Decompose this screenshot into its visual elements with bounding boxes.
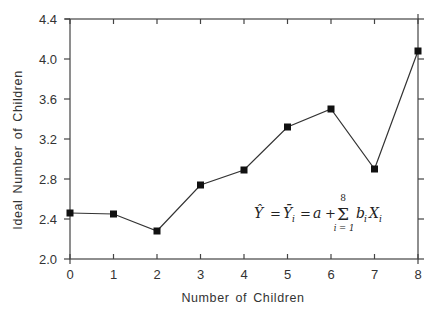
data-point-marker bbox=[328, 106, 335, 113]
formula-a: a bbox=[313, 205, 321, 221]
x-tick-label: 5 bbox=[284, 267, 291, 282]
x-tick-label: 4 bbox=[240, 267, 247, 282]
formula-b-sub: i bbox=[364, 214, 367, 224]
formula-eq2: = bbox=[300, 206, 311, 221]
y-tick-label: 4.4 bbox=[39, 12, 57, 27]
x-tick-label: 6 bbox=[327, 267, 334, 282]
data-point-marker bbox=[110, 211, 117, 218]
x-axis-ticks: 012345678 bbox=[66, 19, 421, 282]
x-tick-label: 3 bbox=[197, 267, 204, 282]
x-tick-label: 8 bbox=[414, 267, 421, 282]
formula-plus: + bbox=[325, 206, 336, 221]
data-point-marker bbox=[284, 124, 291, 131]
y-tick-label: 2.0 bbox=[39, 252, 57, 267]
regression-formula: Ŷ = Ȳ i = a + Σ 8 i = 1 b i X i bbox=[254, 193, 382, 233]
formula-sigma-lower: i = 1 bbox=[334, 223, 355, 233]
formula-sigma-upper: 8 bbox=[340, 193, 346, 203]
x-tick-label: 0 bbox=[66, 267, 73, 282]
line-chart: 012345678 2.02.42.83.23.64.04.4 Number o… bbox=[0, 0, 442, 317]
data-point-marker bbox=[241, 167, 248, 174]
data-point-marker bbox=[197, 182, 204, 189]
data-point-marker bbox=[67, 210, 74, 217]
data-point-marker bbox=[371, 166, 378, 173]
formula-sigma: Σ bbox=[337, 204, 349, 224]
x-tick-label: 1 bbox=[110, 267, 117, 282]
x-axis-title: Number of Children bbox=[181, 291, 304, 305]
x-tick-label: 2 bbox=[153, 267, 160, 282]
series-line bbox=[70, 51, 418, 231]
x-tick-label: 7 bbox=[371, 267, 378, 282]
formula-y-hat: Ŷ bbox=[254, 204, 265, 221]
y-tick-label: 2.8 bbox=[39, 172, 57, 187]
data-point-marker bbox=[415, 48, 422, 55]
y-tick-label: 4.0 bbox=[39, 52, 57, 67]
formula-y-bar-sub: i bbox=[292, 214, 295, 224]
y-tick-label: 2.4 bbox=[39, 212, 57, 227]
y-axis-title: Ideal Number of Children bbox=[11, 70, 25, 229]
y-tick-label: 3.6 bbox=[39, 92, 57, 107]
formula-eq1: = bbox=[270, 206, 281, 221]
y-tick-label: 3.2 bbox=[39, 132, 57, 147]
data-point-marker bbox=[154, 228, 161, 235]
plot-frame bbox=[65, 14, 418, 264]
formula-x-sub: i bbox=[379, 214, 382, 224]
y-axis-ticks: 2.02.42.83.23.64.04.4 bbox=[39, 12, 424, 267]
